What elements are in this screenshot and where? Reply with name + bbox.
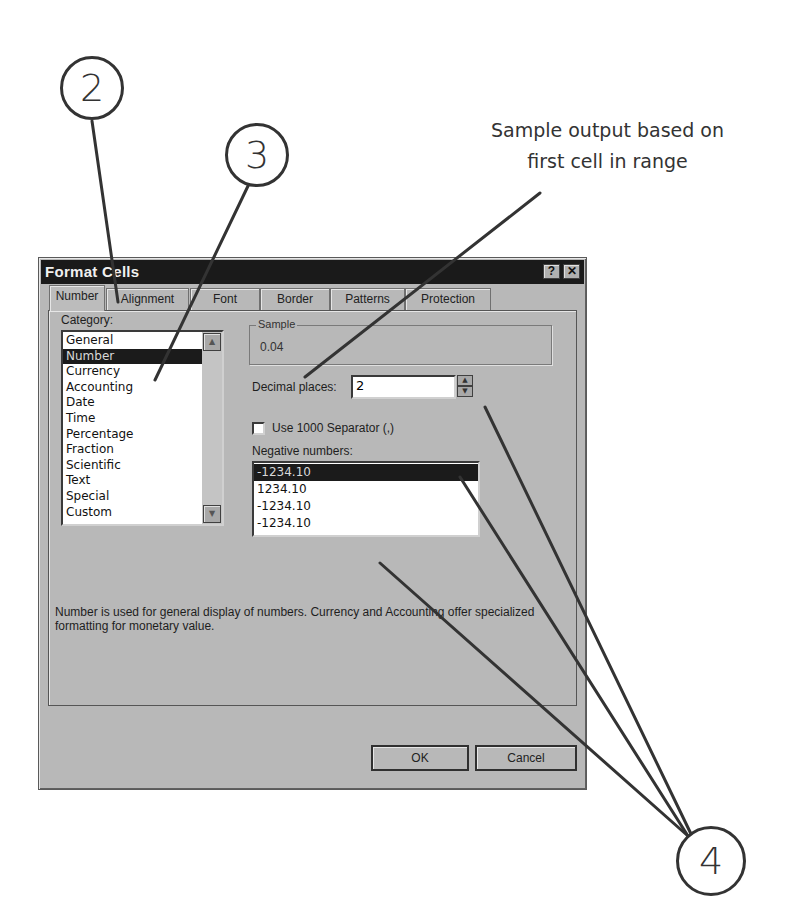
sample-annotation-line1: Sample output based on <box>420 115 795 146</box>
callout-2: 2 <box>60 56 124 120</box>
tab-number[interactable]: Number <box>49 285 105 311</box>
sample-annotation-line2: first cell in range <box>420 146 795 177</box>
callout-4: 4 <box>676 826 746 896</box>
callout-3: 3 <box>225 123 289 187</box>
sample-annotation: Sample output based on first cell in ran… <box>420 115 795 177</box>
